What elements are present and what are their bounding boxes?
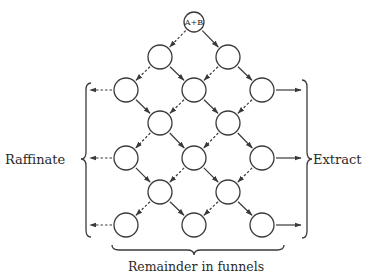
nodes-layer: A+B (114, 12, 274, 237)
funnel-circle (182, 146, 206, 170)
diagram-canvas: A+B Raffinate Extract Remainder in funne… (0, 0, 378, 279)
dashed-arrow-r5b-r6b (204, 202, 218, 215)
solid-arrow-r4b-r5b (204, 168, 218, 182)
funnel-circle (148, 45, 172, 69)
solid-arrow-r5a-r6b (170, 202, 184, 215)
funnel-circle (148, 111, 172, 135)
raffinate-label: Raffinate (5, 152, 66, 167)
dashed-arrow-r1b-r2b (204, 67, 218, 80)
funnel-node (148, 180, 172, 204)
funnel-circle (250, 213, 274, 237)
funnel-node (148, 45, 172, 69)
solid-arrow-r2a-r3a (136, 100, 150, 113)
bottom-brace (112, 245, 284, 255)
start-funnel-node: A+B (184, 12, 204, 32)
dashed-arrow-r4c-r5b (238, 168, 252, 182)
solid-arrow-r1b-r2c (238, 67, 252, 80)
dashed-arrow-r2c-r3b (238, 100, 252, 113)
funnel-node (216, 180, 240, 204)
funnel-circle (250, 146, 274, 170)
funnel-circle (250, 78, 274, 102)
funnel-node (114, 146, 138, 170)
solid-arrow-r2b-r3b (204, 100, 218, 113)
funnel-circle (114, 213, 138, 237)
dashed-arrow-r4b-r5a (170, 168, 184, 182)
funnel-circle (182, 78, 206, 102)
funnel-circle (216, 111, 240, 135)
funnel-node (250, 213, 274, 237)
dashed-arrow-r3b-r4b (204, 133, 218, 148)
solid-arrow-r3b-r4c (238, 133, 252, 148)
dashed-arrow-r3a-r4a (136, 133, 150, 148)
remainder-label: Remainder in funnels (128, 259, 264, 274)
funnel-node (182, 146, 206, 170)
funnel-node (114, 78, 138, 102)
extraction-diagram: A+B Raffinate Extract Remainder in funne… (0, 0, 378, 279)
funnel-circle (148, 180, 172, 204)
solid-arrow-r5b-r6c (238, 202, 252, 215)
funnel-circle (114, 146, 138, 170)
left-brace (81, 83, 91, 237)
dashed-arrow-r2b-r3a (170, 100, 184, 113)
dashed-arrow-r5a-r6a (136, 202, 150, 215)
edges-layer (90, 31, 301, 225)
solid-arrow-r4a-r5a (136, 168, 150, 182)
solid-arrow-n0-r1b (202, 31, 218, 47)
funnel-node (182, 213, 206, 237)
right-brace (302, 80, 312, 238)
funnel-node (148, 111, 172, 135)
funnel-node (250, 146, 274, 170)
solid-arrow-r1a-r2b (170, 67, 184, 80)
funnel-node (182, 78, 206, 102)
funnel-circle (216, 45, 240, 69)
funnel-node (114, 213, 138, 237)
solid-arrow-r3a-r4b (170, 133, 184, 148)
dashed-arrow-n0-r1a (170, 31, 186, 47)
start-node-label: A+B (184, 18, 203, 27)
funnel-circle (114, 78, 138, 102)
funnel-node (216, 111, 240, 135)
funnel-circle (182, 213, 206, 237)
funnel-node (216, 45, 240, 69)
funnel-node (250, 78, 274, 102)
funnel-circle (216, 180, 240, 204)
extract-label: Extract (313, 152, 362, 167)
dashed-arrow-r1a-r2a (136, 67, 150, 80)
